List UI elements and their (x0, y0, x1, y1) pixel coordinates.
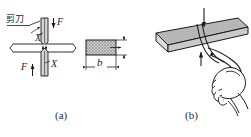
figure-shear-illustration: 剪刀 F F X X b (a) (b) (0, 0, 251, 137)
force-label-bottom: F (21, 62, 27, 72)
section-label-bottom: X (51, 59, 57, 69)
dimension-arrow-icon-thickness (110, 36, 127, 59)
figure-canvas (0, 0, 251, 137)
shear-blade-icon-upper (41, 18, 48, 46)
width-dimension-label: b (97, 57, 103, 68)
section-label-top: X (35, 33, 41, 43)
force-label-top: F (57, 17, 63, 27)
panel-caption-b: (b) (185, 110, 198, 121)
panel-caption-a: (a) (55, 110, 67, 121)
hand-grip-icon (212, 68, 248, 113)
tool-name-label: 剪刀 (6, 15, 24, 24)
